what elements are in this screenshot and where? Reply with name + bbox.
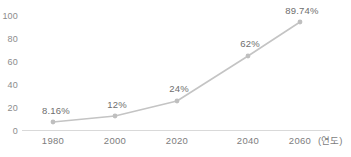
data-label-2040: 62% bbox=[240, 38, 260, 49]
x-axis-tick-2020: 2020 bbox=[153, 135, 201, 146]
x-axis-tick-2060: 2060 bbox=[276, 135, 324, 146]
data-label-2000: 12% bbox=[107, 99, 127, 110]
data-point-2040 bbox=[246, 54, 251, 59]
data-point-2020 bbox=[175, 99, 180, 104]
plot-area bbox=[0, 0, 351, 157]
data-label-1980: 8.16% bbox=[42, 105, 70, 116]
data-point-1980 bbox=[51, 120, 56, 125]
data-label-2060: 89.74% bbox=[285, 5, 318, 16]
x-axis-tick-2040: 2040 bbox=[224, 135, 272, 146]
data-label-2020: 24% bbox=[169, 83, 189, 94]
line-chart: 100 80 60 40 20 0 8.16% 12% 24% 62% 89.7… bbox=[0, 0, 351, 157]
series-line bbox=[53, 22, 300, 122]
x-axis-tick-1980: 1980 bbox=[29, 135, 77, 146]
x-axis-tick-2000: 2000 bbox=[91, 135, 139, 146]
data-point-2060 bbox=[298, 20, 303, 25]
x-axis-unit-label: (연도) bbox=[318, 135, 342, 146]
data-point-2000 bbox=[113, 114, 118, 119]
